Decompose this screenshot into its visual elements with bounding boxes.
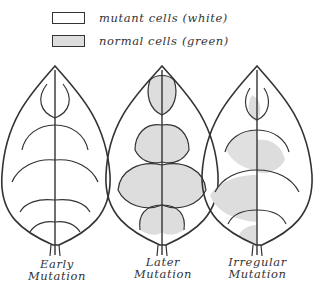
leaf-early <box>2 66 110 256</box>
caption-later-line2: Mutation <box>128 268 198 280</box>
caption-irregular: Irregular Mutation <box>220 256 295 280</box>
caption-early-line2: Mutation <box>22 270 92 282</box>
leaf-later <box>106 66 218 256</box>
caption-irregular-line2: Mutation <box>220 268 295 280</box>
leaf-irregular <box>202 66 312 256</box>
caption-later: Later Mutation <box>128 256 198 280</box>
caption-early: Early Mutation <box>22 258 92 282</box>
leaf-diagram <box>0 0 323 291</box>
